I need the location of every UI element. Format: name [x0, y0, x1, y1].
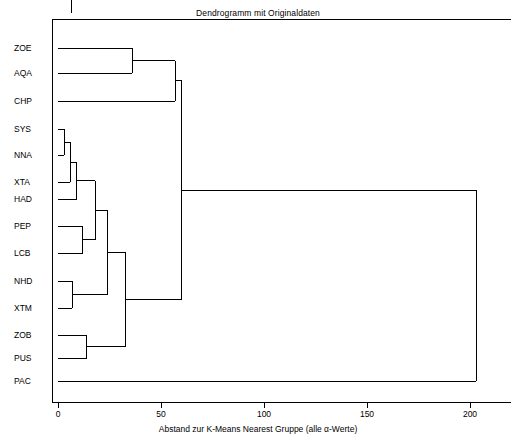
dendrogram-lines — [0, 0, 516, 442]
chart-root: Dendrogramm mit Originaldaten 0 50 100 1… — [0, 0, 516, 442]
